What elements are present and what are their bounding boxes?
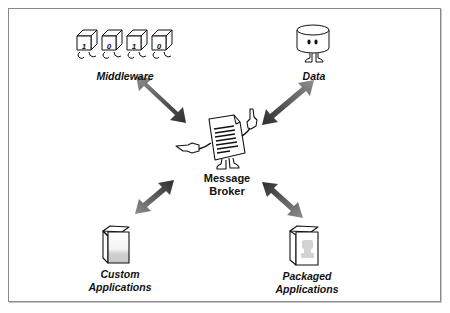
double-arrow-icon bbox=[136, 76, 186, 123]
bit-label: 1 bbox=[82, 42, 87, 51]
arrow-middleware-broker bbox=[136, 76, 186, 123]
middleware-label: Middleware bbox=[96, 70, 153, 83]
cube-icon bbox=[127, 30, 147, 58]
cube-icon bbox=[102, 30, 122, 58]
bit-label: 1 bbox=[132, 42, 137, 51]
double-arrow-icon bbox=[135, 180, 174, 214]
packaged-box-icon bbox=[290, 226, 318, 265]
database-cylinder-icon bbox=[297, 25, 329, 62]
document-character-icon bbox=[176, 109, 257, 169]
box-icon bbox=[103, 226, 129, 263]
arrow-data-broker bbox=[262, 80, 314, 125]
packaged-apps-label-line2: Applications bbox=[275, 283, 338, 296]
packaged-apps-label: Packaged Applications bbox=[275, 270, 338, 296]
arrow-packaged-apps-broker bbox=[262, 182, 303, 218]
broker-label-line1: Message bbox=[204, 172, 250, 185]
double-arrow-icon bbox=[262, 80, 314, 125]
broker-label-line2: Broker bbox=[204, 185, 250, 198]
diagram-canvas: 1 0 1 0 bbox=[0, 0, 450, 313]
cube-icon bbox=[77, 30, 97, 58]
bit-label: 0 bbox=[157, 42, 162, 51]
bit-label: 0 bbox=[107, 42, 112, 51]
cube-icon bbox=[152, 30, 172, 58]
data-label: Data bbox=[303, 70, 326, 83]
double-arrow-icon bbox=[262, 182, 303, 218]
custom-apps-label-line2: Applications bbox=[88, 281, 151, 294]
packaged-apps-label-line1: Packaged bbox=[275, 270, 338, 283]
arrow-custom-apps-broker bbox=[135, 180, 174, 214]
custom-apps-label-line1: Custom bbox=[88, 268, 151, 281]
broker-label: Message Broker bbox=[204, 172, 250, 198]
custom-apps-label: Custom Applications bbox=[88, 268, 151, 294]
